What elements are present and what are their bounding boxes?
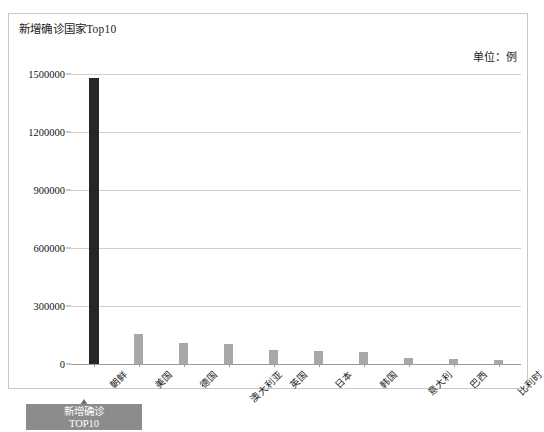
x-axis-category-label: 澳大利亚 (246, 367, 284, 405)
y-axis-tick-label: 900000 (34, 185, 66, 196)
bar-slot (116, 74, 161, 364)
bar-slot (206, 74, 251, 364)
bar-slot (386, 74, 431, 364)
x-axis-category-label: 比利时 (513, 367, 544, 398)
y-axis-tick-label: 1500000 (28, 69, 65, 80)
bar[interactable] (134, 334, 143, 364)
y-axis-tick-label: 600000 (34, 243, 66, 254)
bar[interactable] (224, 344, 233, 364)
y-axis-tick-label: 300000 (34, 301, 66, 312)
x-axis-category-label: 日本 (330, 367, 354, 391)
bar[interactable] (359, 352, 368, 364)
x-axis-category-label: 德国 (195, 367, 219, 391)
page-title: 新增确诊国家Top10 (19, 20, 116, 36)
unit-label: 单位：例 (473, 48, 517, 64)
x-axis-category-label: 英国 (285, 367, 309, 391)
bar-slot (161, 74, 206, 364)
bar-slot (431, 74, 476, 364)
bar[interactable] (314, 351, 323, 364)
bar-slot (296, 74, 341, 364)
bar[interactable] (89, 78, 99, 364)
bar-slot (476, 74, 521, 364)
chart-panel: 新增确诊国家Top10 单位：例 03000006000009000001200… (8, 13, 528, 389)
plot-area: 030000060000090000012000001500000 (71, 74, 521, 364)
bar-slot (251, 74, 296, 364)
x-axis-category-label: 意大利 (423, 367, 454, 398)
bar[interactable] (179, 343, 188, 364)
x-axis-category-label: 美国 (150, 367, 174, 391)
y-axis-tick-label: 0 (60, 359, 65, 370)
legend-button-line1: 新增确诊 (27, 406, 141, 418)
x-axis-category-label: 韩国 (375, 367, 399, 391)
bar-slot (71, 74, 116, 364)
new-confirmed-top10-button[interactable]: 新增确诊 TOP10 (26, 404, 142, 430)
x-axis-labels-group: 朝鲜美国德国澳大利亚英国日本韩国意大利巴西比利时 (71, 367, 521, 403)
x-axis-category-label: 朝鲜 (105, 367, 129, 391)
x-axis-category-label: 巴西 (465, 367, 489, 391)
legend-button-line2: TOP10 (27, 418, 141, 430)
y-axis-tick-label: 1200000 (28, 127, 65, 138)
bar[interactable] (269, 350, 278, 364)
bars-group (71, 74, 521, 364)
bar-slot (341, 74, 386, 364)
